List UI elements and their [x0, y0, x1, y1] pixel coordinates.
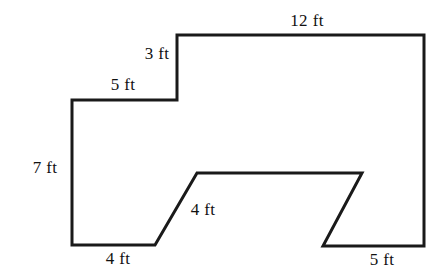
composite-polygon-figure	[0, 0, 441, 280]
geometry-diagram-canvas: 12 ft 3 ft 5 ft 7 ft 4 ft 4 ft 5 ft	[0, 0, 441, 280]
dimension-label-notch-slant-4ft: 4 ft	[191, 201, 216, 218]
dimension-label-bottom-right-5ft: 5 ft	[370, 251, 395, 268]
dimension-label-top-12ft: 12 ft	[290, 12, 324, 29]
dimension-label-step-riser-3ft: 3 ft	[145, 45, 170, 62]
dimension-label-step-tread-5ft: 5 ft	[111, 76, 136, 93]
dimension-label-bottom-left-4ft: 4 ft	[106, 250, 131, 267]
dimension-label-left-7ft: 7 ft	[33, 159, 58, 176]
